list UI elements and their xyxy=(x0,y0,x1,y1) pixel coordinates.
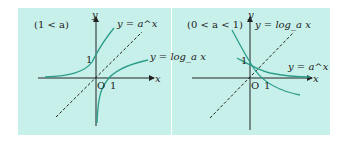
left-graph: (1 < a) y x O 1 1 y = a^x y = log_a x xyxy=(34,9,206,126)
condition-label: (0 < a < 1) xyxy=(187,19,243,30)
one-x-label: 1 xyxy=(110,80,116,91)
exp-curve-label: y = a^x xyxy=(287,61,329,72)
one-y-label: 1 xyxy=(241,55,247,66)
graphs-svg: (1 < a) y x O 1 1 y = a^x y = log_a x (0… xyxy=(0,0,344,145)
origin-label: O xyxy=(251,80,259,91)
x-axis-label: x xyxy=(155,73,161,84)
log-curve-label: y = log_a x xyxy=(149,51,206,63)
log-curve xyxy=(97,60,148,123)
right-graph: (0 < a < 1) y x O 1 1 y = a^x y = log_a … xyxy=(187,9,329,130)
one-x-label: 1 xyxy=(264,80,270,91)
condition-label: (1 < a) xyxy=(34,19,69,30)
x-axis-label: x xyxy=(313,73,319,84)
one-y-label: 1 xyxy=(86,54,92,65)
y-axis-label: y xyxy=(91,9,98,20)
log-curve-label: y = log_a x xyxy=(254,19,311,31)
y-axis-label: y xyxy=(247,9,254,20)
exp-curve-label: y = a^x xyxy=(116,18,158,29)
origin-label: O xyxy=(97,80,105,91)
